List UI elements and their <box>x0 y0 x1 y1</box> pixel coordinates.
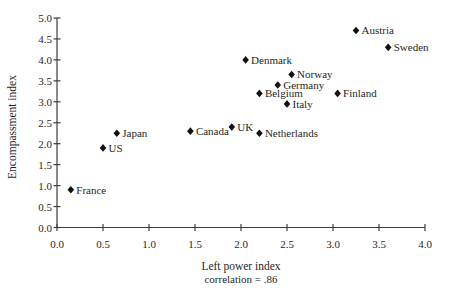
data-point-marker-canada <box>187 127 194 135</box>
data-point-label-denmark: Denmark <box>251 54 292 66</box>
data-point-label-japan: Japan <box>122 127 148 139</box>
data-point-marker-us <box>100 144 107 152</box>
y-tick-label: 3.5 <box>38 75 52 87</box>
y-tick-label: 2.5 <box>38 117 52 129</box>
data-point-label-germany: Germany <box>283 79 324 91</box>
data-point-label-finland: Finland <box>343 87 377 99</box>
data-point-marker-italy <box>284 100 291 108</box>
y-tick-label: 1.5 <box>38 159 52 171</box>
data-point-label-norway: Norway <box>297 68 333 80</box>
data-point-marker-france <box>68 186 75 194</box>
x-tick-label: 4.0 <box>418 238 432 250</box>
y-tick-label: 5.0 <box>38 12 52 24</box>
x-tick-label: 0.5 <box>96 238 110 250</box>
y-tick-label: 0.0 <box>38 222 52 234</box>
x-tick-label: 2.5 <box>280 238 294 250</box>
data-point-label-france: France <box>76 184 106 196</box>
data-point-marker-austria <box>353 27 360 35</box>
y-tick-label: 2.0 <box>38 138 52 150</box>
x-tick-label: 3.0 <box>326 238 340 250</box>
x-tick-label: 1.5 <box>188 238 202 250</box>
data-point-label-us: US <box>109 142 123 154</box>
scatter-chart-figure: 0.00.51.01.52.02.53.03.54.00.00.51.01.52… <box>0 0 449 295</box>
data-point-marker-sweden <box>385 44 392 52</box>
y-tick-label: 0.5 <box>38 201 52 213</box>
x-tick-label: 2.0 <box>234 238 248 250</box>
y-axis-title: Encompassment index <box>6 75 18 179</box>
data-point-marker-denmark <box>242 56 249 64</box>
x-tick-label: 1.0 <box>142 238 156 250</box>
x-tick-label: 3.5 <box>372 238 386 250</box>
x-tick-label: 0.0 <box>50 238 64 250</box>
data-point-label-sweden: Sweden <box>394 41 429 53</box>
data-point-label-canada: Canada <box>196 125 229 137</box>
data-point-marker-belgium <box>256 90 263 98</box>
data-point-label-italy: Italy <box>293 98 314 110</box>
data-point-marker-japan <box>114 129 121 137</box>
data-point-marker-netherlands <box>256 129 263 137</box>
correlation-caption: correlation = .86 <box>204 273 277 285</box>
data-point-label-austria: Austria <box>362 24 395 36</box>
x-axis-title: Left power index <box>201 260 280 272</box>
data-point-label-uk: UK <box>237 121 253 133</box>
data-point-marker-norway <box>288 71 295 79</box>
y-tick-label: 1.0 <box>38 180 52 192</box>
data-point-marker-uk <box>229 123 236 131</box>
plot-area: 0.00.51.01.52.02.53.03.54.00.00.51.01.52… <box>0 0 449 295</box>
data-point-label-netherlands: Netherlands <box>265 127 318 139</box>
y-tick-label: 3.0 <box>38 96 52 108</box>
data-point-marker-finland <box>334 90 341 98</box>
y-tick-label: 4.0 <box>38 54 52 66</box>
y-tick-label: 4.5 <box>38 33 52 45</box>
